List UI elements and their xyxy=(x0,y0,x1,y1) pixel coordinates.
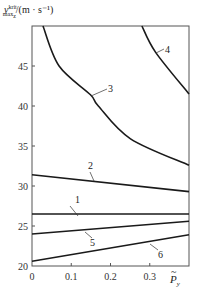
y-tick-label: 35 xyxy=(18,141,28,152)
curve-label-1: 1 xyxy=(75,194,80,205)
plot-frame xyxy=(32,26,189,266)
y-tick-label: 30 xyxy=(18,181,28,192)
x-tick-label: 0.2 xyxy=(104,271,117,282)
y-tick-label: 40 xyxy=(18,101,28,112)
y-tick-label: 20 xyxy=(18,261,28,272)
y-tick-label: 25 xyxy=(18,221,28,232)
x-tick-label: 0.1 xyxy=(65,271,78,282)
curve-label-3: 3 xyxy=(108,83,113,94)
x-tick-label: 0 xyxy=(30,271,35,282)
curve-4 xyxy=(142,26,189,94)
curve-label-4: 4 xyxy=(165,44,170,55)
curve-label-2: 2 xyxy=(88,160,93,171)
curve-label-6: 6 xyxy=(158,249,163,260)
curve-label-5: 5 xyxy=(90,237,95,248)
curves xyxy=(32,26,189,261)
chart-plot: 202530354045 00.10.20.3 123456 xyxy=(0,0,199,302)
curve-5 xyxy=(32,221,189,234)
y-tick-label: 45 xyxy=(18,61,28,72)
curve-6 xyxy=(32,235,189,261)
x-tick-label: 0.3 xyxy=(144,271,157,282)
curve-2 xyxy=(32,175,189,192)
